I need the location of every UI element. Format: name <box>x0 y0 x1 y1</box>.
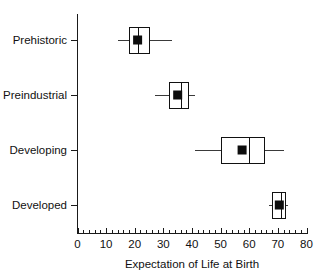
x-tick-label: 80 <box>300 238 313 250</box>
y-tick-group <box>71 41 78 206</box>
x-tick-label: 0 <box>74 238 80 250</box>
x-tick-label: 60 <box>243 238 256 250</box>
box-group <box>118 28 288 219</box>
boxplot-item <box>155 83 195 109</box>
x-tick-label-group: 01020304050607080 <box>74 238 313 250</box>
x-tick-label: 30 <box>157 238 170 250</box>
boxplot-item <box>118 28 172 54</box>
x-tick-group <box>79 228 308 234</box>
mean-marker <box>238 146 247 155</box>
mean-marker <box>275 201 284 210</box>
mean-marker <box>173 91 182 100</box>
x-tick-label: 70 <box>271 238 284 250</box>
boxplot-item <box>269 193 288 219</box>
x-tick-label: 10 <box>100 238 113 250</box>
y-category-label-group: PrehistoricPreindustrialDevelopingDevelo… <box>3 34 67 211</box>
x-tick-label: 40 <box>186 238 199 250</box>
y-category-label: Preindustrial <box>3 89 67 101</box>
plot-area: 01020304050607080 PrehistoricPreindustri… <box>0 0 323 274</box>
y-category-label: Developed <box>12 199 67 211</box>
boxplot-chart: 01020304050607080 PrehistoricPreindustri… <box>0 0 323 274</box>
mean-marker <box>133 36 142 45</box>
y-category-label: Developing <box>9 144 67 156</box>
x-tick-label: 50 <box>214 238 227 250</box>
x-axis-title: Expectation of Life at Birth <box>125 258 259 270</box>
y-category-label: Prehistoric <box>13 34 68 46</box>
boxplot-item <box>195 138 284 164</box>
x-tick-label: 20 <box>128 238 141 250</box>
